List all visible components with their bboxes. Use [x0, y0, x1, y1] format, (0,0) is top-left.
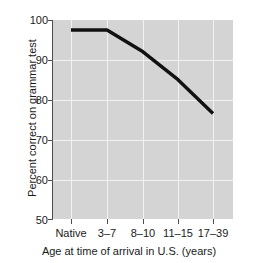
y-tick-label-70: 70 [18, 135, 48, 145]
x-tick-label-17-39: 17–39 [189, 227, 237, 239]
data-series-line [53, 20, 233, 219]
x-tick-mark-3-7 [107, 219, 108, 224]
y-tick-label-50: 50 [18, 215, 48, 225]
plot-area [53, 20, 233, 219]
x-tick-mark-native [71, 219, 72, 224]
y-tick-label-100: 100 [18, 15, 48, 25]
grammar-test-line-chart: Percent correct on grammar test 100 90 8… [0, 0, 258, 263]
y-axis-tick-labels: 100 90 80 70 60 50 [17, 0, 48, 263]
x-axis-title: Age at time of arrival in U.S. (years) [0, 245, 258, 257]
y-tick-label-80: 80 [18, 95, 48, 105]
x-tick-mark-17-39 [213, 219, 214, 224]
x-tick-mark-11-15 [178, 219, 179, 224]
y-tick-label-60: 60 [18, 175, 48, 185]
x-tick-mark-8-10 [143, 219, 144, 224]
y-tick-label-90: 90 [18, 55, 48, 65]
